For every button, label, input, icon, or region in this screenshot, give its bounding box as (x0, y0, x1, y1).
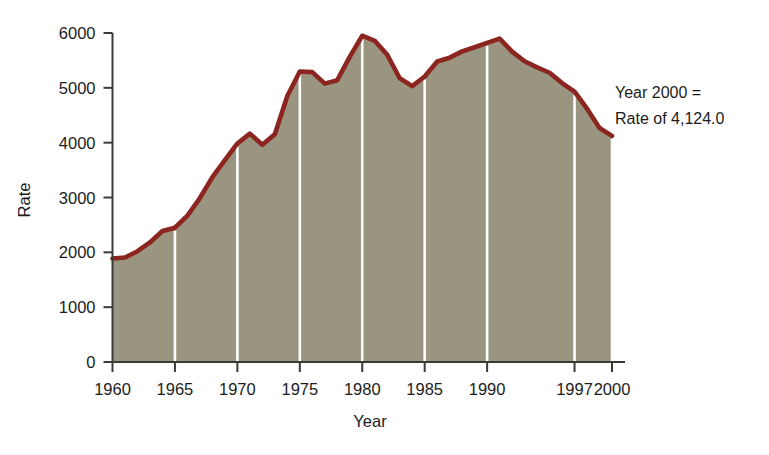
chart-figure: 0100020003000400050006000 19601965197019… (0, 0, 769, 455)
y-axis-title: Rate (15, 183, 33, 218)
x-tick-label-1970: 1970 (219, 380, 256, 398)
x-axis-tick-labels: 196019651970197519801985199019972000 (94, 380, 630, 398)
x-tick-label-1997: 1997 (556, 380, 593, 398)
y-tick-label-3000: 3000 (59, 189, 96, 207)
y-tick-label-6000: 6000 (59, 24, 96, 42)
y-axis-tick-marks (104, 33, 113, 362)
y-axis-tick-labels: 0100020003000400050006000 (59, 24, 96, 371)
x-tick-label-1965: 1965 (157, 380, 194, 398)
x-tick-label-1980: 1980 (344, 380, 381, 398)
x-tick-label-1960: 1960 (94, 380, 131, 398)
x-tick-label-1985: 1985 (406, 380, 443, 398)
x-axis-title: Year (353, 412, 387, 430)
y-tick-label-5000: 5000 (59, 79, 96, 97)
x-tick-label-1990: 1990 (469, 380, 506, 398)
y-tick-label-0: 0 (86, 353, 95, 371)
annotation-line-1: Year 2000 = (615, 84, 701, 101)
plot-area (113, 36, 613, 362)
x-tick-label-1975: 1975 (281, 380, 318, 398)
rate-by-year-area-chart: 0100020003000400050006000 19601965197019… (0, 0, 769, 455)
y-tick-label-2000: 2000 (59, 243, 96, 261)
x-axis-tick-marks (113, 362, 613, 372)
x-tick-label-2000: 2000 (594, 380, 631, 398)
y-tick-label-1000: 1000 (59, 298, 96, 316)
annotation-line-2: Rate of 4,124.0 (615, 110, 725, 127)
y-tick-label-4000: 4000 (59, 134, 96, 152)
